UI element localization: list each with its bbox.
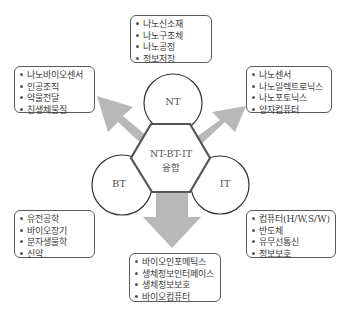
box-bottom: 바이오인포메틱스 생체정보인터페이스 생체정보보호 바이오컴퓨터: [129, 253, 221, 302]
list-item: 인공조직: [20, 82, 89, 94]
box-right-bottom: 컴퓨터(H/W,S/W) 반도체 유무선통신 정보보호: [246, 210, 336, 258]
list-item: 정보보호: [252, 249, 330, 261]
bullet-icon: [252, 240, 255, 243]
bullet-icon: [135, 260, 138, 263]
list-item: 나노일렉트로닉스: [252, 82, 326, 94]
bullet-icon: [252, 73, 255, 76]
bullet-icon: [135, 283, 138, 286]
list-item: 바이오컴퓨터: [135, 292, 215, 304]
bullet-icon: [20, 73, 23, 76]
bullet-icon: [136, 45, 139, 48]
bullet-icon: [252, 217, 255, 220]
bullet-icon: [20, 217, 23, 220]
bullet-icon: [135, 272, 138, 275]
center-title-line1: NT-BT-IT: [140, 148, 202, 159]
bullet-icon: [20, 229, 23, 232]
list-item: 반도체: [252, 226, 330, 238]
bullet-icon: [20, 252, 23, 255]
list-item: 신약: [20, 249, 89, 261]
box-top: 나노신소재 나노구조체 나노공정 정보저장: [130, 15, 212, 63]
list-item: 생체정보인터페이스: [135, 269, 215, 281]
list-item: 나노신소재: [136, 19, 206, 31]
list-item: 컴퓨터(H/W,S/W): [252, 214, 330, 226]
bullet-icon: [136, 57, 139, 60]
list-item: 유무선통신: [252, 237, 330, 249]
bullet-icon: [252, 96, 255, 99]
list-item: 나노구조체: [136, 31, 206, 43]
list-item: 생체정보보호: [135, 280, 215, 292]
bullet-icon: [20, 240, 23, 243]
nt-label: NT: [158, 96, 188, 107]
bullet-icon: [136, 34, 139, 37]
bullet-icon: [252, 108, 255, 111]
it-label: IT: [210, 178, 240, 189]
box-right-top: 나노센서 나노일렉트로닉스 나노포토닉스 양자컴퓨터: [246, 66, 332, 113]
bt-label: BT: [104, 178, 134, 189]
list-item: 양자컴퓨터: [252, 105, 326, 117]
list-item: 정보저장: [136, 54, 206, 66]
list-item: 분자생물학: [20, 237, 89, 249]
list-item: 나노센서: [252, 70, 326, 82]
bullet-icon: [136, 22, 139, 25]
bullet-icon: [135, 295, 138, 298]
bullet-icon: [252, 229, 255, 232]
list-item: 나노바이오센서: [20, 70, 89, 82]
list-item: 바이오인포메틱스: [135, 257, 215, 269]
list-item: 유전공학: [20, 214, 89, 226]
box-left-top: 나노바이오센서 인공조직 약물전달 친생체물질: [14, 66, 95, 113]
list-item: 나노포토닉스: [252, 93, 326, 105]
bullet-icon: [20, 85, 23, 88]
bullet-icon: [252, 252, 255, 255]
list-item: 친생체물질: [20, 105, 89, 117]
list-item: 바이오장기: [20, 226, 89, 238]
list-item: 나노공정: [136, 42, 206, 54]
box-left-bottom: 유전공학 바이오장기 분자생물학 신약: [14, 210, 95, 258]
list-item: 약물전달: [20, 93, 89, 105]
bullet-icon: [252, 85, 255, 88]
center-title-line2: 융합: [140, 160, 202, 174]
bullet-icon: [20, 108, 23, 111]
bullet-icon: [20, 96, 23, 99]
arrow-down-icon: [143, 190, 201, 248]
